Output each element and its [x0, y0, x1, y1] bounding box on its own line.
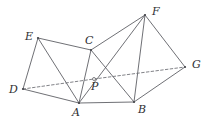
vertex-point-d — [22, 88, 24, 90]
vertex-point-c — [90, 49, 92, 51]
solid-edge-group — [23, 15, 185, 103]
edge-ea — [38, 38, 79, 103]
vertex-label-f: F — [152, 6, 160, 17]
vertex-label-b: B — [138, 104, 146, 115]
edge-cf — [91, 15, 145, 50]
vertex-point-g — [184, 66, 186, 68]
edge-bg — [134, 67, 185, 102]
vertex-point-a — [78, 102, 80, 104]
edge-ed — [23, 38, 38, 89]
vertex-point-b — [133, 101, 135, 103]
dashed-edge-pg — [94, 67, 185, 79]
edge-fg — [145, 15, 185, 67]
vertex-label-e: E — [25, 31, 33, 42]
vertex-label-c: C — [85, 35, 93, 46]
edge-da — [23, 89, 79, 103]
vertex-label-d: D — [9, 84, 18, 95]
vertex-label-g: G — [192, 59, 201, 70]
vertex-point-e — [37, 37, 39, 39]
edge-ab — [79, 102, 134, 103]
geometry-figure: EDACPBFG — [0, 0, 208, 123]
vertex-label-p: P — [91, 81, 98, 92]
vertex-label-a: A — [72, 107, 80, 118]
vertex-point-f — [144, 14, 146, 16]
edge-ec — [38, 38, 91, 50]
geometry-canvas — [0, 0, 208, 123]
vertex-marker-group — [22, 14, 186, 104]
